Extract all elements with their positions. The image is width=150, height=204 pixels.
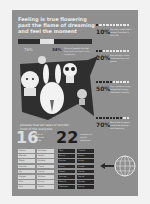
stat-value: 20% — [96, 54, 110, 61]
word-cell: Joy — [18, 170, 35, 174]
word-cell: Rainbow — [37, 149, 54, 153]
stat-desc: Say a cartoon or toy brings back happy m… — [110, 85, 132, 94]
infographic-title: Feeling is true flowering past the flame… — [18, 16, 98, 34]
word-cell: Kite — [18, 180, 35, 184]
word-cell: Sunny — [37, 180, 54, 184]
dot-meter — [96, 81, 136, 84]
word-cell: Cloud — [37, 165, 54, 169]
word-cell: Secret — [77, 175, 94, 179]
word-cell: Smile — [37, 185, 54, 189]
word-cell: Forest — [58, 170, 75, 174]
word-cell: Laugh — [77, 159, 94, 163]
panda-character-icon — [63, 63, 77, 77]
stat-value: 10% — [96, 28, 110, 35]
progress-mid-pct: 34% — [52, 47, 62, 52]
word-cell: Picnic — [58, 165, 75, 169]
word-cell: Swing — [77, 185, 94, 189]
left-word-list: Dream Rainbow Wonder Bright Magic Bubble… — [18, 149, 54, 189]
stat-value: 70% — [96, 121, 110, 128]
stat-70: 70%Would like to spend more time playing… — [96, 117, 136, 139]
stat-20: 20%Are nostalgic about childhood toys an… — [96, 50, 136, 72]
word-cell: Giggle — [18, 175, 35, 179]
word-cell: Garden — [77, 180, 94, 184]
word-cell: Moonlit — [58, 180, 75, 184]
stat-10: 10%Say they rarely feel a sense of wonde… — [96, 24, 136, 46]
word-cell: Dance — [58, 159, 75, 163]
characters-illustration — [18, 56, 104, 124]
word-cell: Bunny — [58, 154, 75, 158]
dot-meter — [96, 24, 136, 27]
arrow-left-icon — [100, 163, 114, 169]
progress-bar — [18, 39, 92, 44]
small-character-icon — [38, 56, 46, 64]
dot-meter — [96, 117, 136, 120]
progress-highlight — [40, 39, 54, 44]
word-cell: Castle — [77, 170, 94, 174]
word-cell: Journey — [58, 175, 75, 179]
stat-50: 50%Say a cartoon or toy brings back happ… — [96, 81, 136, 103]
small-character-icon — [77, 89, 87, 99]
dot-meter — [96, 50, 136, 53]
stat-desc: Are nostalgic about childhood toys and g… — [110, 54, 132, 63]
count-22-note: moments of playful adventure — [80, 133, 94, 142]
word-cell: Bright — [37, 154, 54, 158]
stat-value: 50% — [96, 85, 110, 92]
word-cell: Sparkle — [18, 165, 35, 169]
count-16-note: words of childhood wonder — [34, 133, 48, 142]
stat-desc: Would like to spend more time playing an… — [110, 121, 132, 130]
cat-character-icon — [21, 71, 39, 89]
progress-left-pct: 76% — [24, 47, 33, 52]
progress-note: Share of people who feel they have lost … — [64, 47, 90, 56]
word-cell: Dream — [18, 149, 35, 153]
word-cell: Friends — [77, 149, 94, 153]
count-22: 22 — [56, 130, 78, 146]
word-cell: Magic — [18, 159, 35, 163]
word-cell: Toys — [58, 149, 75, 153]
word-cell: Bubble — [37, 159, 54, 163]
word-cell: Wonder — [18, 154, 35, 158]
word-cell: Candy — [37, 170, 54, 174]
word-cell: Panda — [77, 154, 94, 158]
word-cell: Treasure — [58, 185, 75, 189]
word-cell: Puzzle — [77, 165, 94, 169]
stat-desc: Say they rarely feel a sense of wonder i… — [110, 28, 132, 37]
right-word-list: Toys Friends Bunny Panda Dance Laugh Pic… — [58, 149, 94, 189]
word-cell: Star — [18, 185, 35, 189]
word-cell: Balloon — [37, 175, 54, 179]
globe-icon — [114, 155, 136, 177]
